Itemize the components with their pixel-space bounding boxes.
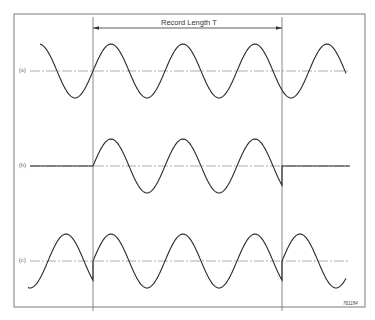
trace-c-label: (c) <box>19 257 26 263</box>
figure-id: 761184 <box>343 301 358 306</box>
trace-b-label: (b) <box>19 162 26 168</box>
trace-a-label: (a) <box>19 67 26 73</box>
figure-frame <box>14 14 365 307</box>
arrowhead-right-icon <box>276 26 282 29</box>
arrowhead-left-icon <box>93 26 99 29</box>
record-length-label: Record Length T <box>161 18 217 27</box>
fourier-windowing-diagram <box>0 0 375 320</box>
